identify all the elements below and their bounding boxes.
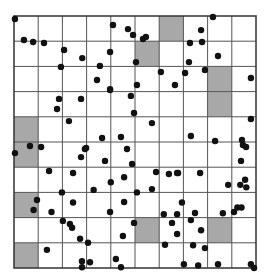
point: [195, 262, 201, 268]
point: [215, 261, 221, 267]
point: [66, 118, 72, 124]
point: [149, 186, 155, 192]
shaded-cell: [14, 192, 38, 217]
point: [190, 242, 196, 248]
point: [131, 220, 137, 226]
point: [56, 96, 62, 102]
point: [107, 209, 113, 215]
point: [202, 245, 208, 251]
point: [87, 259, 93, 265]
point: [243, 184, 249, 190]
point: [202, 67, 208, 73]
point: [12, 150, 18, 156]
point: [187, 40, 193, 46]
point: [99, 135, 105, 141]
point: [44, 247, 50, 253]
point: [158, 69, 164, 75]
point: [77, 236, 83, 242]
point: [192, 210, 198, 216]
point: [174, 211, 180, 217]
point: [38, 144, 44, 150]
point: [78, 96, 84, 102]
point: [243, 144, 249, 150]
point: [61, 47, 67, 53]
point: [134, 82, 140, 88]
point: [186, 59, 192, 65]
point: [237, 182, 243, 188]
point: [215, 53, 221, 59]
point: [34, 197, 40, 203]
point: [108, 179, 114, 185]
point: [121, 199, 127, 205]
point: [162, 242, 168, 248]
point: [60, 218, 66, 224]
point: [210, 14, 216, 20]
point: [46, 168, 52, 174]
point: [248, 75, 254, 81]
point: [166, 171, 172, 177]
point: [175, 170, 181, 176]
point: [48, 209, 54, 215]
point: [85, 240, 91, 246]
point: [79, 55, 85, 61]
point: [107, 87, 113, 93]
point: [12, 16, 18, 22]
point: [199, 39, 205, 45]
point: [41, 40, 47, 46]
point: [59, 189, 65, 195]
point: [179, 199, 185, 205]
point: [102, 158, 108, 164]
point: [70, 199, 76, 205]
point: [238, 158, 244, 164]
shaded-cell: [135, 218, 159, 243]
point: [131, 110, 137, 116]
point: [143, 34, 149, 40]
shaded-cell: [14, 117, 38, 142]
point: [27, 143, 33, 149]
point: [129, 161, 135, 167]
point: [107, 49, 113, 55]
point: [133, 59, 139, 65]
point: [248, 116, 254, 122]
point: [212, 138, 218, 144]
point: [220, 210, 226, 216]
shaded-cell: [14, 243, 38, 268]
point: [181, 261, 187, 267]
point: [90, 187, 96, 193]
shaded-cell: [208, 92, 232, 117]
point: [118, 264, 124, 270]
shaded-cell: [208, 66, 232, 91]
point: [188, 217, 194, 223]
point: [198, 27, 204, 33]
point: [21, 37, 27, 43]
point: [238, 204, 244, 210]
point: [134, 189, 140, 195]
point: [30, 39, 36, 45]
point: [79, 258, 85, 264]
point: [242, 177, 248, 183]
point: [69, 224, 75, 230]
point: [30, 207, 36, 213]
point: [124, 146, 130, 152]
point: [58, 64, 64, 70]
point: [125, 26, 131, 32]
grid-diagram: [0, 0, 271, 279]
point: [182, 70, 188, 76]
shaded-cell: [208, 218, 232, 243]
point: [251, 265, 257, 271]
point: [161, 211, 167, 217]
point: [169, 220, 175, 226]
point: [188, 133, 194, 139]
point: [149, 120, 155, 126]
point: [94, 77, 100, 83]
point: [83, 145, 89, 151]
point: [110, 22, 116, 28]
point: [78, 154, 84, 160]
point: [128, 93, 134, 99]
point: [172, 82, 178, 88]
point: [153, 169, 159, 175]
point: [174, 231, 180, 237]
point: [130, 32, 136, 38]
point: [118, 134, 124, 140]
point: [121, 174, 127, 180]
